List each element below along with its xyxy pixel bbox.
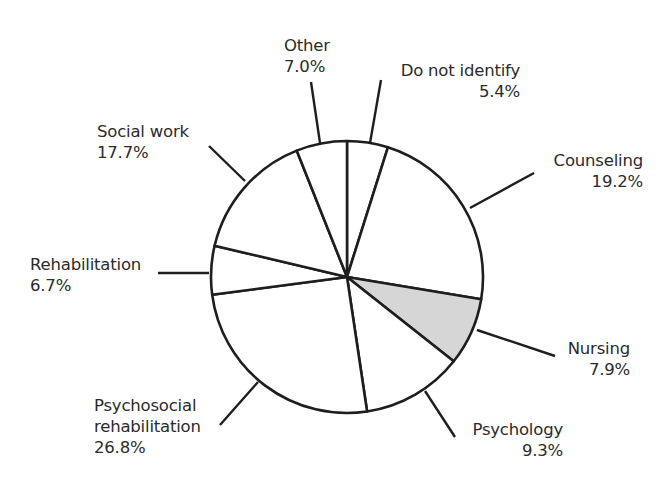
label-nursing: Nursing 7.9% [560, 338, 630, 380]
label-psychosocial-rehabilitation: Psychosocial rehabilitation 26.8% [94, 395, 201, 458]
label-do-not-identify-value: 5.4% [388, 81, 520, 102]
label-rehabilitation-value: 6.7% [30, 275, 141, 296]
label-do-not-identify: Do not identify 5.4% [388, 60, 520, 102]
label-psychology-name: Psychology [462, 419, 563, 440]
label-social-work-value: 17.7% [97, 142, 189, 163]
leader-social-work [209, 146, 245, 181]
label-social-work: Social work 17.7% [97, 121, 189, 163]
label-counseling-value: 19.2% [540, 171, 643, 192]
leader-psychology [425, 391, 455, 437]
leader-other [311, 82, 320, 143]
label-psychology: Psychology 9.3% [462, 419, 563, 461]
label-social-work-name: Social work [97, 121, 189, 142]
label-other-value: 7.0% [284, 56, 330, 77]
leader-nursing [477, 330, 555, 356]
label-psychosocial-name-line1: Psychosocial [94, 395, 201, 416]
label-psychosocial-name-line2: rehabilitation [94, 416, 201, 437]
label-rehabilitation-name: Rehabilitation [30, 254, 141, 275]
label-counseling: Counseling 19.2% [540, 150, 643, 192]
label-do-not-identify-name: Do not identify [388, 60, 520, 81]
leader-do-not-identify [370, 80, 381, 143]
label-nursing-value: 7.9% [560, 359, 630, 380]
leader-psychosocial [220, 382, 258, 425]
label-psychology-value: 9.3% [462, 440, 563, 461]
wedge-psychosocial-rehabilitation [212, 277, 367, 413]
label-psychosocial-value: 26.8% [94, 437, 201, 458]
label-other-name: Other [284, 35, 330, 56]
label-counseling-name: Counseling [540, 150, 643, 171]
label-rehabilitation: Rehabilitation 6.7% [30, 254, 141, 296]
label-other: Other 7.0% [284, 35, 330, 77]
label-nursing-name: Nursing [560, 338, 630, 359]
leader-counseling [470, 173, 534, 208]
